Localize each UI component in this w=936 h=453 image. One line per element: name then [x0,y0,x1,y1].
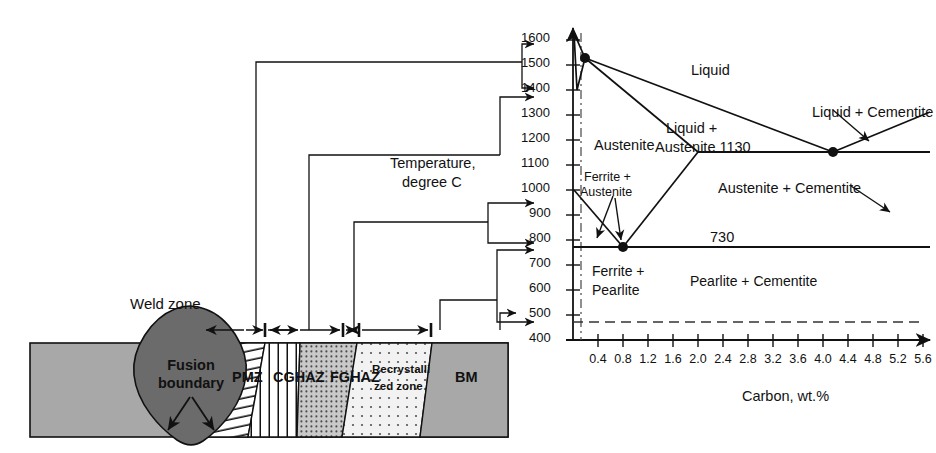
y-tick-label-1200: 1200 [521,131,550,146]
y-tick-label-800: 800 [529,231,551,246]
point-peritectic [580,53,590,63]
zone-bm-band [420,343,508,437]
region-label-ferrite-pearlite-line2: Pearlite [592,283,639,299]
connector-arrow-900 [488,203,534,222]
y-tick-label-1500: 1500 [521,56,550,71]
temperature-axis-title-line1: Temperature, [390,155,475,171]
region-label-ferrite-austenite-line1: Ferrite + [584,170,631,184]
zone-dimension-arrows [206,323,431,337]
region-label-liquid-austenite-line1: Liquid + [666,120,717,136]
y-tick-label-1000: 1000 [521,181,550,196]
region-label-pearlite-cementite: Pearlite + Cementite [690,274,817,290]
region-label-liquid-austenite-1130: Austenite 1130 [655,139,751,155]
point-eutectic [828,147,838,157]
connector-arrow-800 [488,222,534,243]
x-tick-label-13: 5.6 [908,352,936,366]
y-tick-label-1600: 1600 [521,31,550,46]
y-tick-label-600: 600 [529,281,551,296]
y-tick-label-400: 400 [529,331,551,346]
weld-cross-section [30,306,508,445]
y-tick-label-500: 500 [529,306,551,321]
zone-label-recrystallized-line1: Recrystalli [372,363,430,376]
region-label-ferrite-pearlite-line1: Ferrite + [592,264,645,280]
zone-label-recrystallized-line2: zed zone [374,380,423,393]
y-tick-label-1100: 1100 [521,156,549,171]
region-label-liquid-cementite: Liquid + Cementite [812,104,933,120]
ferrite-austenite-arrow-2 [615,198,621,240]
zone-label-bm: BM [455,369,478,385]
y-tick-label-1400: 1400 [521,81,550,96]
region-label-austenite: Austenite [594,137,654,153]
connector-lines [256,44,534,330]
temperature-axis-title-line2: degree C [402,174,462,190]
region-label-ferrite-austenite-line2: Austenite [580,185,632,199]
fusion-boundary-label-line1: Fusion [145,357,237,373]
region-label-austenite-cementite: Austenite + Cementite [718,180,861,196]
figure-root: Weld zone Fusion boundary PMZ CGHAZ FGHA… [0,0,936,453]
fusion-boundary-label-line2: boundary [139,375,243,391]
point-eutectoid [618,242,628,252]
zone-label-cghaz: CGHAZ [273,369,325,385]
y-tick-label-1300: 1300 [521,106,550,121]
region-label-liquid: Liquid [691,62,730,78]
zone-label-pmz: PMZ [232,369,263,385]
x-axis-title: Carbon, wt.% [742,388,829,404]
y-tick-label-700: 700 [529,256,551,271]
eutectoid-temperature-label: 730 [710,229,734,245]
weld-zone-title: Weld zone [130,296,201,313]
y-tick-label-900: 900 [529,206,551,221]
